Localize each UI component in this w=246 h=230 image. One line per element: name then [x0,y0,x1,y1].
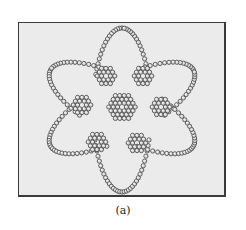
central-bead-cluster [107,93,138,120]
bead-cluster-figure [0,0,246,230]
figure-caption: (a) [0,204,246,217]
